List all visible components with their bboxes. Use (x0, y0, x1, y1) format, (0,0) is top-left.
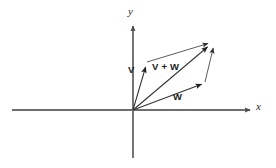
parallelogram-side-from-v-tip (147, 44, 208, 63)
vector-canvas (0, 0, 276, 168)
x-axis-label: x (256, 101, 261, 112)
vector-v-plus-w-label: V + W (152, 62, 179, 72)
vector-v-plus-w (133, 47, 208, 110)
vector-diagram: y x V V + W W (0, 0, 276, 168)
vector-w (133, 84, 202, 110)
vector-w-label: W (173, 92, 182, 102)
y-axis-label: y (128, 6, 133, 17)
vector-v-label: V (128, 65, 135, 75)
parallelogram-side-from-w-tip (205, 48, 213, 82)
